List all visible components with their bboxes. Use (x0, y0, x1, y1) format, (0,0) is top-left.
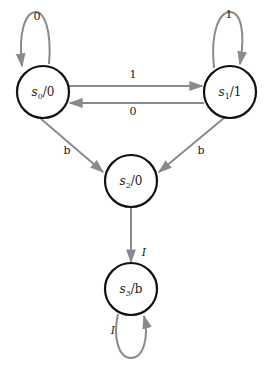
state-diagram: 0 1 1 0 b b I I s0/0 s1/1 s2/0 (0, 0, 266, 367)
edge-label-s2-s3: I (141, 246, 147, 259)
state-s3: s3/b (105, 263, 157, 315)
edge-label-s3-self: I (110, 324, 116, 337)
edge-label-s0-s1: 1 (130, 68, 137, 81)
edge-label-s1-s2: b (197, 144, 204, 157)
state-s2-output: /0 (131, 174, 143, 188)
state-s1: s1/1 (204, 66, 256, 118)
state-s0-output: /0 (43, 85, 55, 99)
edge-s1-to-s2 (159, 118, 224, 172)
edge-s3-self-loop (116, 314, 146, 358)
edge-label-s0-s2: b (63, 144, 70, 157)
svg-text:s2/0: s2/0 (120, 174, 143, 190)
svg-text:s0/0: s0/0 (32, 85, 55, 101)
svg-text:s1/1: s1/1 (219, 85, 242, 101)
edge-s0-to-s2 (40, 118, 103, 172)
edge-label-s1-s0: 0 (130, 105, 137, 118)
state-s2: s2/0 (105, 155, 157, 207)
edge-label-s1-self: 1 (226, 8, 233, 21)
svg-text:s3/b: s3/b (120, 282, 143, 298)
edge-label-s0-self: 0 (34, 10, 41, 23)
state-s3-output: /b (131, 282, 143, 296)
state-s0: s0/0 (17, 66, 69, 118)
state-s1-output: /1 (230, 85, 242, 99)
